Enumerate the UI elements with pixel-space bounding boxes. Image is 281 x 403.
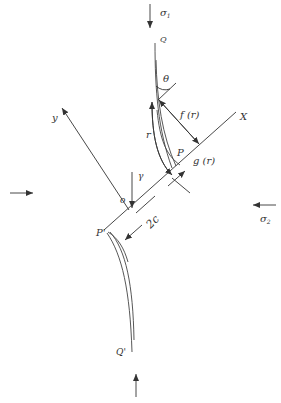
- crack-diagram: σ1 σ2 Q θ f (r) r X y: [0, 0, 281, 403]
- theta-label: θ: [163, 73, 169, 84]
- sigma1-label: σ1: [160, 7, 171, 19]
- origin-label: o: [120, 195, 126, 205]
- Q-label: Q: [160, 35, 167, 44]
- y-axis-label: y: [51, 112, 58, 123]
- lower-wing-crack: [107, 232, 134, 352]
- f-r-label: f (r): [179, 109, 200, 120]
- g-r-label: g (r): [193, 155, 215, 166]
- Q-prime-label: Q': [116, 347, 126, 357]
- x-axis-label: X: [239, 111, 248, 122]
- y-axis: [62, 108, 129, 210]
- two-c-label: 2c: [143, 213, 162, 232]
- two-c-dimension: [125, 171, 190, 240]
- x-axis: [104, 112, 236, 230]
- r-label: r: [146, 129, 152, 140]
- P-label: P: [176, 147, 184, 158]
- sigma2-label: σ2: [260, 213, 271, 225]
- theta-angle: [156, 83, 176, 100]
- P-prime-label: P': [95, 227, 105, 238]
- f-r-arrow: [159, 100, 199, 144]
- gamma-label: γ: [138, 171, 144, 181]
